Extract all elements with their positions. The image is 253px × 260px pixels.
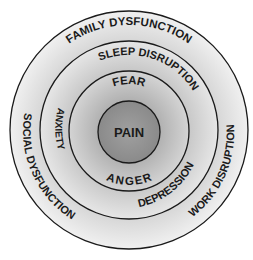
concentric-diagram: PAIN FEAR ANGER SLEEP DISRUPTION ANXIETY… [0,0,253,260]
label-pain: PAIN [114,125,144,140]
